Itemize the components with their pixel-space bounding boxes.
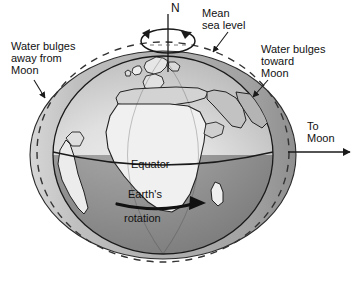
water-bulges-toward-label-line3: Moon	[261, 67, 289, 80]
earths-rotation-label-line1: Earth's	[128, 188, 162, 201]
to-moon-label-line2: Moon	[307, 132, 335, 145]
water-bulges-toward-label-line1: Water bulges	[261, 43, 325, 56]
to-moon-label-line1: To	[307, 120, 319, 133]
diagram-canvas: N Water bulges away from Moon Mean sea l…	[0, 0, 360, 286]
landmass-british-isles	[132, 66, 142, 75]
spin-arrowhead-left	[142, 29, 150, 39]
mean-sea-level-label-line2: sea level	[202, 19, 245, 32]
water-bulges-away-label-line3: Moon	[11, 64, 39, 77]
leader-bulge-away	[34, 80, 45, 98]
water-bulges-away-label-line2: away from	[11, 52, 62, 65]
north-pole-label: N	[171, 2, 180, 15]
water-bulges-toward-label-line2: toward	[261, 55, 294, 68]
water-bulges-away-label-line1: Water bulges	[11, 40, 75, 53]
earths-rotation-label-line2: rotation	[124, 212, 161, 225]
equator-label: Equator	[131, 158, 170, 171]
mean-sea-level-label-line1: Mean	[202, 7, 230, 20]
leader-mean-sea-level	[213, 32, 228, 52]
